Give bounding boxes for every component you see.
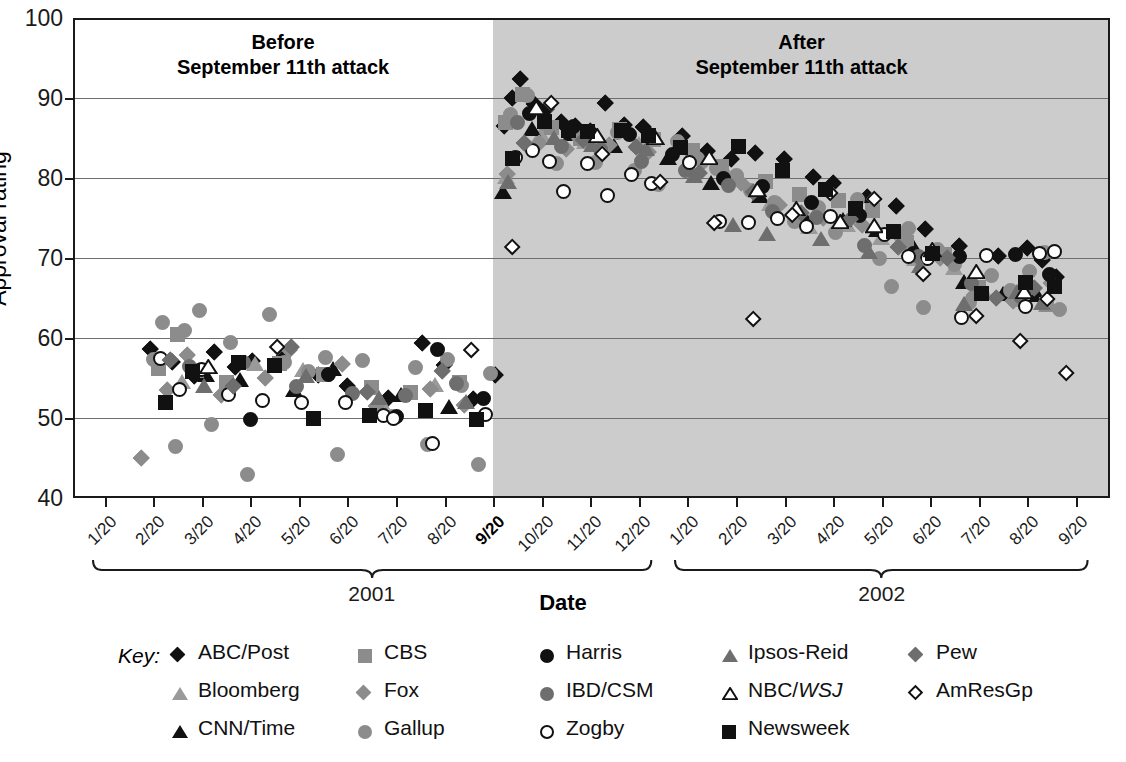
data-point: [770, 211, 785, 226]
data-point: [1047, 279, 1062, 294]
data-point: [440, 399, 458, 414]
data-point: [865, 218, 883, 233]
legend-label: AmResGp: [936, 678, 1033, 702]
data-point: [804, 195, 819, 210]
data-point: [255, 393, 270, 408]
legend-marker-triangle-open: [722, 687, 738, 700]
data-point: [673, 140, 688, 155]
data-point: [925, 246, 940, 261]
legend-marker-diamond-open: [908, 685, 923, 700]
region-after-line2: September 11th attack: [695, 56, 907, 78]
region-caption-after: After September 11th attack: [493, 30, 1110, 80]
legend-label: IBD/CSM: [566, 678, 654, 702]
data-point: [700, 150, 718, 165]
legend-label: Bloomberg: [198, 678, 300, 702]
data-point: [741, 215, 756, 230]
data-point: [195, 378, 213, 393]
y-tick-label-100: 100: [5, 5, 63, 32]
x-tick-20: [1076, 498, 1078, 507]
data-point: [731, 139, 746, 154]
data-point: [749, 182, 767, 197]
year-brace-2002: [673, 558, 1090, 580]
data-point: [974, 286, 989, 301]
x-tick-18: [979, 498, 981, 507]
x-tick-6: [396, 498, 398, 507]
legend-label: Gallup: [384, 716, 445, 740]
data-point: [204, 417, 219, 432]
data-point: [469, 412, 484, 427]
data-point: [818, 182, 833, 197]
y-tick-label-90: 90: [5, 85, 63, 112]
data-point: [812, 231, 830, 246]
x-tick-8: [493, 498, 495, 507]
data-point: [499, 174, 517, 189]
data-point: [860, 244, 878, 259]
gridline-50: [73, 418, 1110, 419]
y-axis-title: Approval rating: [0, 29, 12, 429]
data-point: [848, 201, 863, 216]
data-point: [386, 411, 401, 426]
legend-marker-triangle: [172, 687, 188, 700]
x-tick-5: [347, 498, 349, 507]
legend-marker-diamond: [170, 647, 185, 662]
data-point: [418, 403, 433, 418]
data-point: [614, 123, 629, 138]
legend-marker-circle: [540, 687, 554, 701]
data-point: [1018, 275, 1033, 290]
data-point: [901, 221, 916, 236]
data-point: [758, 226, 776, 241]
x-tick-10: [590, 498, 592, 507]
gridline-90: [73, 98, 1110, 99]
data-point: [471, 457, 486, 472]
legend-marker-triangle: [172, 725, 188, 738]
x-tick-4: [299, 498, 301, 507]
data-point: [200, 359, 218, 374]
legend: Key: ABC/PostBloombergCNN/TimeCBSFoxGall…: [0, 636, 1126, 762]
data-point: [984, 268, 999, 283]
x-tick-13: [736, 498, 738, 507]
data-point: [1018, 299, 1033, 314]
data-point: [362, 408, 377, 423]
y-tick-70: [65, 258, 73, 260]
legend-marker-circle: [540, 725, 554, 739]
x-tick-19: [1027, 498, 1029, 507]
data-point: [955, 296, 973, 311]
data-point: [158, 395, 173, 410]
data-point: [600, 188, 615, 203]
x-tick-0: [105, 498, 107, 507]
data-point: [457, 394, 475, 409]
data-point: [430, 342, 445, 357]
legend-label: Fox: [384, 678, 419, 702]
x-tick-16: [882, 498, 884, 507]
x-tick-3: [250, 498, 252, 507]
data-point: [155, 315, 170, 330]
legend-marker-triangle: [722, 649, 738, 662]
legend-label: Newsweek: [748, 716, 850, 740]
chart-root: Before September 11th attack After Septe…: [0, 0, 1126, 762]
data-point: [223, 335, 238, 350]
data-point: [831, 214, 849, 229]
plot-area: [73, 18, 1110, 498]
x-tick-14: [785, 498, 787, 507]
data-point: [624, 167, 639, 182]
data-point: [185, 364, 200, 379]
data-point: [408, 360, 423, 375]
legend-marker-square: [722, 725, 736, 739]
data-point: [425, 436, 440, 451]
data-point: [267, 358, 282, 373]
data-point: [967, 264, 985, 279]
data-point: [641, 128, 656, 143]
data-point: [542, 154, 557, 169]
legend-label: NBC/WSJ: [748, 678, 843, 702]
data-point: [505, 151, 520, 166]
data-point: [1008, 247, 1023, 262]
legend-marker-circle: [540, 649, 554, 663]
data-point: [724, 217, 742, 232]
region-after-line1: After: [778, 31, 825, 53]
data-point: [321, 367, 336, 382]
x-tick-15: [833, 498, 835, 507]
y-tick-60: [65, 338, 73, 340]
y-tick-label-40: 40: [5, 485, 63, 512]
x-tick-1: [153, 498, 155, 507]
legend-key-label: Key:: [118, 644, 160, 668]
